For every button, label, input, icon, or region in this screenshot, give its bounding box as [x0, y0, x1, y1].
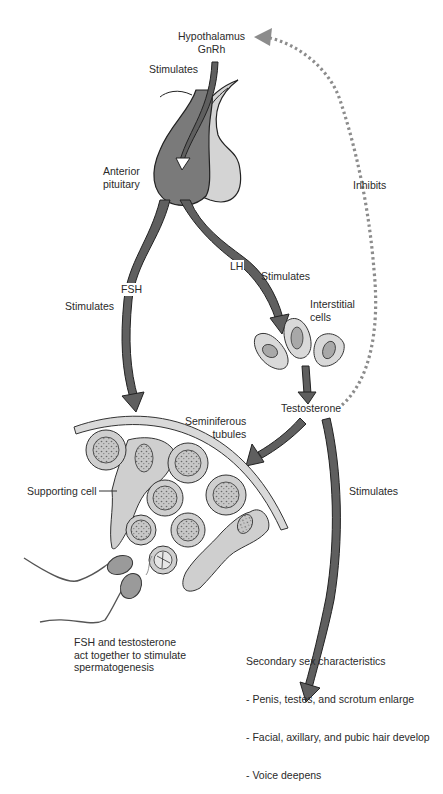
hypothalamus-text: Hypothalamus	[178, 30, 245, 43]
sperm-cells	[24, 552, 152, 623]
secondary-item: - Facial, axillary, and pubic hair devel…	[246, 731, 430, 744]
fsh-stimulates-label: Stimulates	[65, 300, 114, 313]
fsh-label: FSH	[120, 283, 143, 296]
note-line-1: FSH and testosterone	[74, 636, 186, 649]
interstitial-cells	[254, 318, 344, 369]
tubules-text: tubules	[185, 428, 246, 441]
gnrh-text: GnRh	[178, 43, 245, 56]
fsh-stimulates-arrow	[122, 200, 170, 412]
note-line-2: act together to stimulate	[74, 649, 186, 662]
testosterone-label: Testosterone	[281, 402, 341, 415]
hypothalamus-label: Hypothalamus GnRh	[178, 30, 245, 55]
cells-text: cells	[310, 311, 355, 324]
secondary-title: Secondary sex characteristics	[246, 655, 430, 668]
supporting-cell-label: Supporting cell	[27, 485, 96, 498]
spermatogenesis-note: FSH and testosterone act together to sti…	[74, 636, 186, 674]
anterior-pituitary-label: Anterior pituitary	[103, 165, 140, 190]
gnrh-stimulates-label: Stimulates	[149, 63, 198, 76]
lh-stimulates-label: Stimulates	[261, 270, 310, 283]
seminiferous-tubules-label: Seminiferous tubules	[185, 415, 246, 440]
anterior-text: Anterior	[103, 165, 140, 178]
inhibits-label: Inhibits	[353, 179, 386, 192]
interstitial-text: Interstitial	[310, 298, 355, 311]
lh-label: LH	[229, 260, 244, 273]
interstitial-cells-label: Interstitial cells	[310, 298, 355, 323]
secondary-stimulates-label: Stimulates	[349, 485, 398, 498]
secondary-sex-characteristics: Secondary sex characteristics - Penis, t…	[246, 630, 430, 794]
secondary-item: - Voice deepens	[246, 769, 430, 782]
testosterone-to-tubules-arrow	[246, 418, 306, 466]
seminiferous-text: Seminiferous	[185, 415, 246, 428]
note-line-3: spermatogenesis	[74, 661, 186, 674]
secondary-item: - Penis, testes, and scrotum enlarge	[246, 693, 430, 706]
interstitial-to-testosterone-arrow	[298, 366, 316, 404]
pituitary-text: pituitary	[103, 178, 140, 191]
